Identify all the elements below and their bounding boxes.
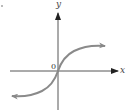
- y-axis-label: y: [56, 0, 61, 9]
- function-graph: [0, 0, 130, 111]
- origin-label: 0: [51, 63, 56, 71]
- x-axis-label: x: [120, 66, 125, 75]
